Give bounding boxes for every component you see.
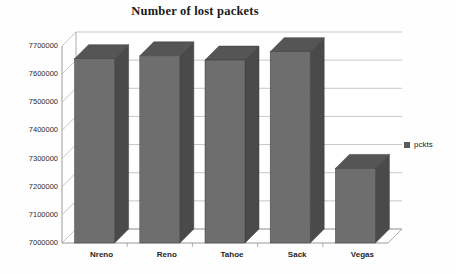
y-axis-tick-label: 7400000 (10, 125, 58, 134)
x-axis-label-tahoe: Tahoe (202, 250, 262, 259)
plot-area (0, 0, 456, 274)
legend-label-pckts: pckts (414, 140, 433, 149)
chart-svg (0, 0, 456, 274)
legend-swatch-pckts (404, 142, 410, 148)
y-axis-tick-label: 7100000 (10, 210, 58, 219)
y-axis-tick-label: 7700000 (10, 41, 58, 50)
y-axis-tick-label: 7500000 (10, 97, 58, 106)
x-axis-label-vegas: Vegas (332, 250, 392, 259)
chart-container: Number of lost packets 77000007600000750… (0, 0, 456, 274)
x-axis-label-nreno: Nreno (72, 250, 132, 259)
y-axis-tick-label: 7600000 (10, 69, 58, 78)
y-axis-tick-label: 7200000 (10, 182, 58, 191)
y-axis-tick-label: 7000000 (10, 238, 58, 247)
y-axis-tick-label: 7300000 (10, 154, 58, 163)
chart-legend: pckts (404, 140, 433, 149)
x-axis-label-reno: Reno (137, 250, 197, 259)
x-axis-label-sack: Sack (267, 250, 327, 259)
